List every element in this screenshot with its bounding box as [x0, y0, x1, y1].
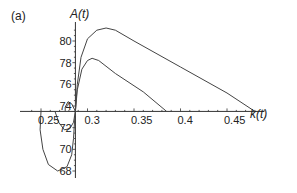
y-tick-label: 80	[59, 35, 71, 47]
y-tick-label: 70	[59, 143, 71, 155]
y-axis-title: A(t)	[69, 7, 89, 21]
y-tick-label: 68	[59, 165, 71, 177]
y-tick-label: 72	[59, 122, 71, 134]
x-tick-label: 0.25	[38, 114, 59, 126]
y-tick-label: 78	[59, 57, 71, 69]
x-tick-label: 0.35	[131, 114, 152, 126]
phase-plot: 0.250.30.350.40.4568707274767880 A(t) k(…	[0, 0, 297, 193]
x-axis-title: k(t)	[250, 107, 267, 121]
x-tick-label: 0.4	[178, 114, 193, 126]
x-tick-label: 0.3	[85, 114, 100, 126]
tick-labels: 0.250.30.350.40.4568707274767880	[38, 35, 245, 177]
trajectory-upper-branch	[75, 58, 166, 111]
x-tick-label: 0.45	[224, 114, 245, 126]
trajectory-upper-branch	[75, 28, 255, 111]
y-tick-label: 74	[59, 100, 71, 112]
trajectory-curves	[40, 28, 255, 171]
y-tick-label: 76	[59, 78, 71, 90]
